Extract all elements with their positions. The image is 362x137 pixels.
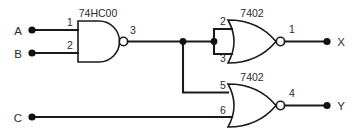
gate-nor-top-7402	[228, 20, 285, 63]
circuit-svg: A B C X Y 74HC00 7402 7402 1 2 3 2 3 1 5…	[0, 0, 362, 137]
gate-nand-74hc00	[78, 21, 128, 62]
label-output-y: Y	[337, 100, 345, 112]
terminal-dot-input-b	[28, 49, 35, 56]
pin-label-nor-bottom-output-4: 4	[289, 87, 295, 99]
pin-label-nor-bottom-input-6: 6	[220, 104, 226, 116]
chip-label-nand: 74HC00	[79, 7, 118, 19]
pin-label-nand-input-2: 2	[67, 39, 73, 51]
circuit-diagram-canvas: A B C X Y 74HC00 7402 7402 1 2 3 2 3 1 5…	[0, 0, 362, 137]
pin-label-nand-output-3: 3	[130, 24, 136, 36]
chip-label-nor-bottom: 7402	[240, 71, 264, 83]
gate-nor-bottom-7402	[228, 84, 285, 127]
junction-dot-nor-top-input	[211, 38, 218, 45]
pin-label-nor-top-output-1: 1	[289, 23, 295, 35]
pin-label-nor-top-input-2: 2	[220, 15, 226, 27]
pin-label-nor-top-input-3: 3	[220, 52, 226, 64]
nor-bottom-output-bubble	[276, 101, 284, 109]
label-input-b: B	[14, 48, 22, 60]
terminal-dot-output-x	[323, 38, 330, 45]
pin-label-nor-bottom-input-5: 5	[220, 79, 226, 91]
label-input-a: A	[14, 25, 22, 37]
terminal-dot-output-y	[323, 102, 330, 109]
nor-top-output-bubble	[276, 37, 284, 45]
label-input-c: C	[14, 112, 22, 124]
nor-top-gate-body	[228, 20, 276, 63]
nand-gate-body	[78, 21, 119, 62]
nor-bottom-gate-body	[228, 84, 276, 127]
nand-output-bubble	[119, 37, 127, 45]
junction-dot-branch	[180, 38, 187, 45]
chip-label-nor-top: 7402	[240, 7, 264, 19]
terminal-dot-input-c	[28, 113, 35, 120]
pin-label-nand-input-1: 1	[67, 16, 73, 28]
label-output-x: X	[337, 36, 345, 48]
terminal-dot-input-a	[28, 26, 35, 33]
